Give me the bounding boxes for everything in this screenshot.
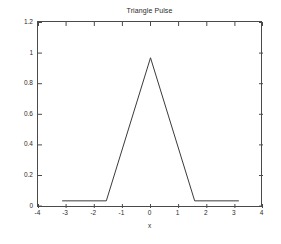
x-tick-label: -3 (58, 209, 72, 216)
x-tick-label: -4 (31, 209, 45, 216)
figure-canvas: Triangle Pulse 1.2 1 0.8 0.6 0.4 0.2 0 (0, 0, 281, 244)
x-tick-label: 4 (255, 209, 269, 216)
x-tick-label: -2 (86, 209, 100, 216)
x-tick-label: 0 (143, 209, 157, 216)
x-axis-tick-labels: -4 -3 -2 -1 0 1 2 3 4 (0, 0, 281, 244)
x-axis-label: x (37, 222, 262, 229)
x-tick-label: -1 (114, 209, 128, 216)
x-tick-label: 1 (171, 209, 185, 216)
x-tick-label: 3 (227, 209, 241, 216)
x-tick-label: 2 (199, 209, 213, 216)
